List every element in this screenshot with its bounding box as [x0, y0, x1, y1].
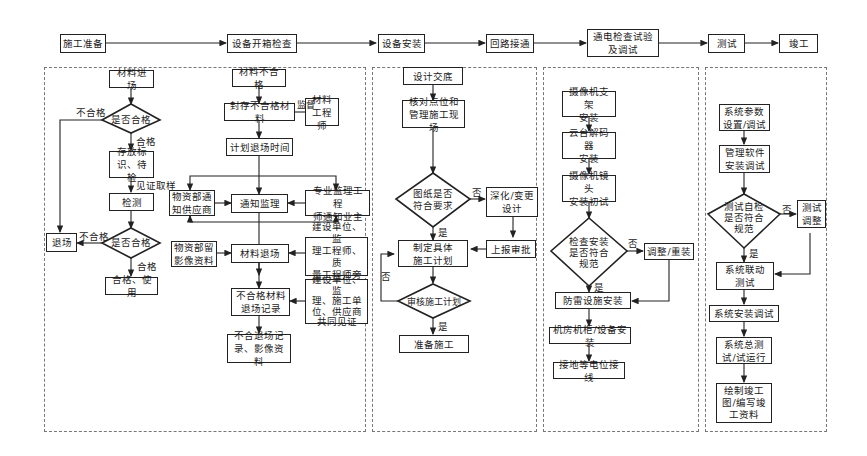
- node-photo-archive: 物资部留 影像资料: [171, 241, 217, 267]
- node-test-tune: 测试 调整: [797, 200, 826, 228]
- edge-label-yes-2: 是: [438, 321, 448, 332]
- node-system-install-debug: 系统安装调试: [709, 305, 779, 322]
- decision-qualified-2-label: 是否合格: [102, 235, 160, 251]
- decision-install-check-label: 检查安装 是否符合 规范: [556, 234, 622, 270]
- edge-label-no-2: 否: [381, 271, 391, 282]
- node-grounding: 接地等电位接线: [553, 362, 625, 379]
- node-specific-plan: 制定具体 施工计划: [398, 240, 468, 267]
- node-seal-nonconforming: 封存不合格材料: [224, 103, 295, 121]
- node-prepare-construction: 准备施工: [399, 335, 469, 353]
- decision-selfcheck-label: 测试自检 是否符合 规范: [713, 200, 775, 234]
- edge-label-yes: 是: [749, 248, 759, 259]
- stage-power-test: 通电检查试验 及调试: [587, 29, 659, 57]
- edge-label-supervise: 监督: [297, 100, 315, 111]
- node-joint-witness: 建设单位、监 理、施工单 位、供应商 共同见证: [305, 279, 368, 324]
- decision-review-plan-label: 审核施工计划: [400, 295, 468, 308]
- node-revise-design: 深化/变更 设计: [486, 187, 538, 217]
- node-material-exit: 材料退场: [231, 244, 289, 263]
- node-lightning-protection: 防雷设施安装: [555, 292, 631, 309]
- node-notify-supervisor: 通知监理: [231, 194, 288, 213]
- stage-circuit-connect: 回路接通: [486, 34, 534, 53]
- node-qualified-use: 合格、使用: [105, 277, 158, 295]
- node-testing: 检测: [109, 193, 154, 211]
- node-onsite-witness: 建设单位、监 理工程师、质 量工程师旁站: [305, 237, 368, 276]
- node-as-built-docs: 绘制竣工 图/编写竣 工资料: [716, 383, 772, 423]
- node-exit-record: 不合格材料 退场记录: [231, 288, 290, 316]
- node-ptz-decoder: 云台解码器 安装: [562, 132, 616, 159]
- node-notify-owner: 专业监理工程 师通知业主: [305, 190, 370, 216]
- node-plan-exit-time: 计划退场时间: [226, 138, 293, 156]
- edge-label-fail-2: 不合格: [79, 231, 109, 242]
- stage-construction-prep: 施工准备: [60, 34, 106, 53]
- stage-testing: 测试: [708, 34, 745, 53]
- node-cabinet-install: 机房机柜/设备安装: [549, 327, 631, 344]
- node-system-params: 系统参数 设置/调试: [719, 104, 770, 131]
- edge-label-yes: 是: [594, 282, 604, 293]
- edge-label-fail-1: 不合格: [76, 107, 106, 118]
- stage-unpacking-inspection: 设备开箱检查: [227, 34, 297, 53]
- node-material-arrival: 材料进场: [109, 70, 154, 88]
- node-return-exit: 退场: [46, 233, 77, 252]
- edge-label-yes-1: 是: [438, 227, 448, 238]
- node-trial-run: 系统总测 试/试运行: [716, 337, 772, 364]
- node-store-label: 存放标 识、待检: [109, 151, 154, 178]
- node-design-disclosure: 设计交底: [403, 67, 463, 85]
- decision-qualified-1-label: 是否合格: [102, 112, 160, 128]
- stage-equipment-install: 设备安装: [378, 34, 425, 53]
- node-camera-bracket: 摄像机支架 安装: [562, 91, 616, 117]
- node-camera-lens: 摄像机镜头 安装初试: [562, 175, 616, 202]
- node-notify-supplier: 物资部通 知供应商: [169, 190, 215, 216]
- node-adjust-reinstall: 调整/重装: [644, 243, 694, 260]
- node-linkage-test: 系统联动 测试: [716, 262, 774, 290]
- edge-label-pass-2: 合格: [137, 261, 157, 272]
- edge-label-no: 否: [628, 238, 638, 249]
- edge-label-pass-1: 合格: [136, 136, 156, 147]
- decision-drawing-check-label: 图纸是否 符合要求: [400, 187, 466, 213]
- node-verify-points: 核对点位和 管理施工现场: [402, 100, 465, 128]
- node-management-software: 管理软件 安装调试: [719, 145, 770, 173]
- node-record-archive: 不合退场记 录、影像资料: [227, 334, 291, 363]
- stage-completion: 竣工: [779, 34, 818, 53]
- edge-label-no-1: 否: [472, 187, 482, 198]
- node-report-approval: 上报审批: [486, 240, 536, 258]
- node-material-nonconforming: 材料不合格: [232, 69, 286, 87]
- edge-label-no: 否: [782, 204, 792, 215]
